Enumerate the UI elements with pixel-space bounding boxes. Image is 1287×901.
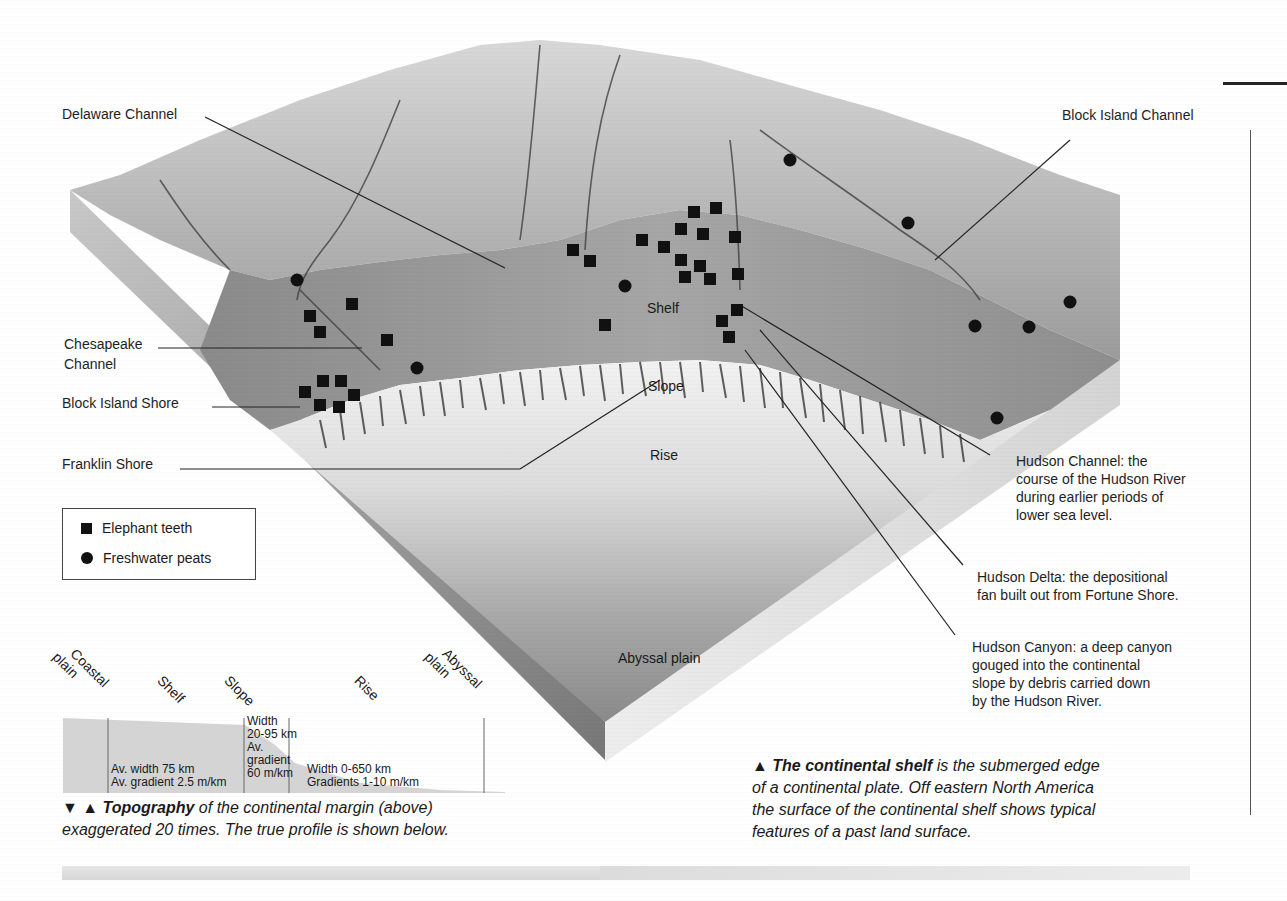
freshwater-peat-marker <box>784 154 797 167</box>
legend-item-freshwater-peats: Freshwater peats <box>81 550 211 566</box>
elephant-tooth-marker <box>688 206 700 218</box>
zone-label-slope: Slope <box>648 378 684 394</box>
freshwater-peat-marker <box>291 274 304 287</box>
rise-stat-line: Gradients 1-10 m/km <box>307 776 419 789</box>
callout-hudson-delta: Hudson Delta: the depositional fan built… <box>977 568 1179 604</box>
elephant-tooth-marker <box>694 260 706 272</box>
hudson-channel-line: Hudson Channel: the <box>1016 452 1186 470</box>
callout-block-island-shore: Block Island Shore <box>62 394 179 412</box>
hudson-channel-line: lower sea level. <box>1016 506 1186 524</box>
elephant-tooth-marker <box>314 399 326 411</box>
square-marker-icon <box>81 523 92 534</box>
divider-bar-left <box>62 866 602 880</box>
caption-text: exaggerated 20 times. The true profile i… <box>62 819 449 841</box>
elephant-tooth-marker <box>697 228 709 240</box>
zone-label-abyssal-plain: Abyssal plain <box>618 650 701 666</box>
caption-text: of the continental margin (above) <box>194 799 432 816</box>
elephant-tooth-marker <box>704 273 716 285</box>
elephant-tooth-marker <box>304 310 316 322</box>
elephant-tooth-marker <box>675 254 687 266</box>
elephant-tooth-marker <box>348 389 360 401</box>
freshwater-peat-marker <box>991 412 1004 425</box>
elephant-tooth-marker <box>333 401 345 413</box>
page-rule-top <box>1223 82 1287 85</box>
hudson-channel-line: course of the Hudson River <box>1016 470 1186 488</box>
elephant-tooth-marker <box>675 223 687 235</box>
legend-label: Elephant teeth <box>102 520 192 536</box>
freshwater-peat-marker <box>969 320 982 333</box>
freshwater-peat-marker <box>619 280 632 293</box>
caption-continental-shelf: ▲ The continental shelf is the submerged… <box>752 755 1100 843</box>
freshwater-peat-marker <box>1064 296 1077 309</box>
legend-label: Freshwater peats <box>103 550 211 566</box>
elephant-tooth-marker <box>716 315 728 327</box>
caption-text: the surface of the continental shelf sho… <box>752 799 1100 821</box>
zone-label-shelf: Shelf <box>647 300 679 316</box>
triangle-markers-icon: ▼ ▲ <box>62 799 98 816</box>
caption-bold: The continental shelf <box>772 757 932 774</box>
caption-text: of a continental plate. Off eastern Nort… <box>752 777 1100 799</box>
elephant-tooth-marker <box>732 268 744 280</box>
hudson-canyon-line: slope by debris carried down <box>972 674 1172 692</box>
elephant-tooth-marker <box>723 331 735 343</box>
hudson-canyon-line: gouged into the continental <box>972 656 1172 674</box>
elephant-tooth-marker <box>314 326 326 338</box>
elephant-tooth-marker <box>710 202 722 214</box>
caption-text: features of a past land surface. <box>752 821 1100 843</box>
divider-bar-right <box>600 866 1190 880</box>
caption-topography: ▼ ▲ Topography of the continental margin… <box>62 797 449 841</box>
elephant-tooth-marker <box>679 271 691 283</box>
freshwater-peat-marker <box>411 362 424 375</box>
hudson-delta-line: fan built out from Fortune Shore. <box>977 586 1179 604</box>
callout-chesapeake-channel-line1: Chesapeake <box>64 335 143 353</box>
callout-chesapeake-channel-line2: Channel <box>64 355 116 373</box>
elephant-tooth-marker <box>567 244 579 256</box>
shelf-stat-line: Av. gradient 2.5 m/km <box>111 776 227 789</box>
elephant-tooth-marker <box>346 298 358 310</box>
elephant-tooth-marker <box>381 334 393 346</box>
elephant-tooth-marker <box>729 231 741 243</box>
caption-text: is the submerged edge <box>932 757 1099 774</box>
caption-bold: Topography <box>103 799 195 816</box>
callout-hudson-canyon: Hudson Canyon: a deep canyon gouged into… <box>972 638 1172 710</box>
elephant-tooth-marker <box>658 241 670 253</box>
elephant-tooth-marker <box>599 319 611 331</box>
slope-stat-line: 60 m/km <box>247 767 297 780</box>
profile-slope-stats: Width 20-95 km Av. gradient 60 m/km <box>247 715 297 780</box>
circle-marker-icon <box>81 552 93 564</box>
hudson-delta-line: Hudson Delta: the depositional <box>977 568 1179 586</box>
hudson-channel-line: during earlier periods of <box>1016 488 1186 506</box>
elephant-tooth-marker <box>584 255 596 267</box>
elephant-tooth-marker <box>299 386 311 398</box>
freshwater-peat-marker <box>1023 321 1036 334</box>
hudson-canyon-line: Hudson Canyon: a deep canyon <box>972 638 1172 656</box>
elephant-tooth-marker <box>335 375 347 387</box>
elephant-tooth-marker <box>731 304 743 316</box>
profile-rise-stats: Width 0-650 km Gradients 1-10 m/km <box>307 763 419 789</box>
freshwater-peat-marker <box>902 217 915 230</box>
zone-label-rise: Rise <box>650 447 678 463</box>
callout-block-island-channel: Block Island Channel <box>1062 106 1194 124</box>
legend: Elephant teeth Freshwater peats <box>62 508 256 580</box>
elephant-tooth-marker <box>317 375 329 387</box>
callout-franklin-shore: Franklin Shore <box>62 455 153 473</box>
elephant-tooth-marker <box>636 234 648 246</box>
callout-delaware-channel: Delaware Channel <box>62 105 177 123</box>
legend-item-elephant-teeth: Elephant teeth <box>81 520 192 536</box>
page-rule-vertical <box>1250 130 1251 815</box>
hudson-canyon-line: by the Hudson River. <box>972 692 1172 710</box>
profile-shelf-stats: Av. width 75 km Av. gradient 2.5 m/km <box>111 763 227 789</box>
callout-hudson-channel: Hudson Channel: the course of the Hudson… <box>1016 452 1186 524</box>
triangle-up-icon: ▲ <box>752 757 768 774</box>
